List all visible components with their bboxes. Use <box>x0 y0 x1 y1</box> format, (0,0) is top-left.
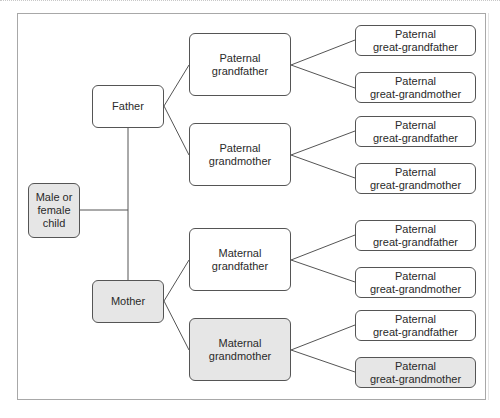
node-label: Male or female child <box>36 191 73 230</box>
node-label: Paternal great-grandmother <box>370 75 461 101</box>
node-label: Paternal great-grandmother <box>370 360 461 386</box>
node-paternal-grandmother: Paternal grandmother <box>189 123 291 186</box>
node-great-grandparent-6: Paternal great-grandmother <box>355 267 476 298</box>
node-maternal-grandmother: Maternal grandmother <box>189 318 291 381</box>
node-label: Mother <box>111 295 145 308</box>
node-great-grandparent-7: Paternal great-grandfather <box>355 310 476 341</box>
node-great-grandparent-4: Paternal great-grandmother <box>355 163 476 194</box>
node-maternal-grandfather: Maternal grandfather <box>189 228 291 291</box>
node-label: Maternal grandmother <box>209 337 271 363</box>
node-great-grandparent-1: Paternal great-grandfather <box>355 25 476 56</box>
node-label: Paternal great-grandfather <box>373 28 458 54</box>
node-label: Father <box>112 100 144 113</box>
node-label: Maternal grandfather <box>212 247 268 273</box>
node-great-grandparent-3: Paternal great-grandfather <box>355 116 476 147</box>
node-label: Paternal great-grandmother <box>370 270 461 296</box>
node-label: Paternal grandfather <box>212 52 268 78</box>
node-label: Paternal great-grandmother <box>370 166 461 192</box>
node-label: Paternal great-grandfather <box>373 313 458 339</box>
node-great-grandparent-8: Paternal great-grandmother <box>355 357 476 388</box>
node-father: Father <box>92 85 164 128</box>
node-great-grandparent-5: Paternal great-grandfather <box>355 220 476 251</box>
node-mother: Mother <box>92 280 164 323</box>
node-label: Paternal great-grandfather <box>373 119 458 145</box>
node-paternal-grandfather: Paternal grandfather <box>189 33 291 96</box>
node-great-grandparent-2: Paternal great-grandmother <box>355 72 476 103</box>
node-label: Paternal great-grandfather <box>373 223 458 249</box>
node-child: Male or female child <box>28 183 80 238</box>
node-label: Paternal grandmother <box>209 142 271 168</box>
